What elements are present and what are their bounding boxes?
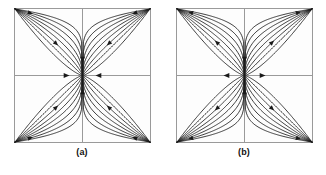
plot-frame-a xyxy=(14,8,151,143)
phase-portrait-a xyxy=(14,8,151,143)
figure-container: (a) (b) xyxy=(0,0,326,175)
panel-a: (a) xyxy=(14,8,151,157)
plot-frame-b xyxy=(176,8,313,143)
panel-caption-a: (a) xyxy=(76,148,88,157)
phase-portrait-b xyxy=(176,8,313,143)
panel-caption-b: (b) xyxy=(238,148,250,157)
panel-b: (b) xyxy=(176,8,313,157)
